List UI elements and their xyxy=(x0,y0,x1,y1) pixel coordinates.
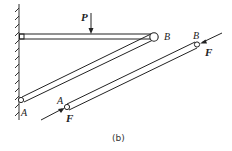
label-b-structure: B xyxy=(164,31,170,42)
label-f-a: F xyxy=(65,112,74,124)
member-end-b xyxy=(194,42,199,47)
label-a-member: A xyxy=(56,95,64,106)
pin-a xyxy=(18,97,23,102)
fixed-wall xyxy=(15,4,19,120)
load-arrow-p xyxy=(89,13,94,34)
member-end-a xyxy=(64,104,69,109)
label-f-b: F xyxy=(204,46,213,58)
label-b-member: B xyxy=(193,30,199,41)
label-a-structure: A xyxy=(20,107,28,118)
free-body-member xyxy=(67,42,197,110)
inclined-strut xyxy=(22,34,153,102)
caption: (b) xyxy=(112,133,125,143)
label-p: P xyxy=(81,11,88,23)
horizontal-beam xyxy=(19,34,152,39)
mechanics-diagram: P B A A B F F (b) xyxy=(0,0,232,151)
pin-b xyxy=(150,33,158,41)
force-arrow-b xyxy=(200,33,222,44)
force-arrow-a xyxy=(41,108,65,120)
